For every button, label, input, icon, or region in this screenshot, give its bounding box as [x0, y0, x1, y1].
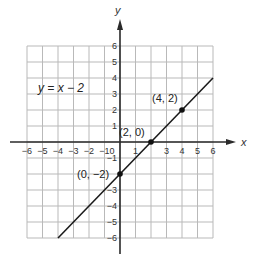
- y-axis-label: y: [114, 4, 122, 16]
- coordinate-graph: −6−5−4−3−2−1013456654321−1−3−4−5−6 (0, −…: [0, 0, 261, 262]
- x-axis-label: x: [240, 136, 247, 148]
- x-tick-label: −4: [53, 146, 63, 156]
- y-tick-label: 3: [112, 89, 117, 99]
- y-tick-label: 2: [112, 105, 117, 115]
- equation-label: y = x − 2: [37, 81, 84, 95]
- point-label: (0, −2): [77, 168, 109, 180]
- x-tick-label: −2: [84, 146, 94, 156]
- y-tick-label: −4: [107, 201, 117, 211]
- labeled-points: (0, −2)(2, 0)(4, 2): [77, 92, 185, 180]
- y-tick-label: 5: [112, 57, 117, 67]
- x-tick-label: 4: [179, 146, 184, 156]
- x-tick-label: −5: [37, 146, 47, 156]
- y-tick-label: 6: [112, 41, 117, 51]
- point-marker: [117, 171, 123, 177]
- point-label: (4, 2): [152, 92, 178, 104]
- x-tick-label: 3: [164, 146, 169, 156]
- point-marker: [148, 139, 154, 145]
- x-tick-label: −3: [68, 146, 78, 156]
- y-tick-label: −1: [107, 153, 117, 163]
- x-tick-label: 6: [210, 146, 215, 156]
- y-tick-label: −6: [107, 233, 117, 243]
- point-label: (2, 0): [119, 126, 145, 138]
- x-tick-label: −6: [22, 146, 32, 156]
- point-marker: [179, 107, 185, 113]
- y-axis-arrow-icon: [117, 19, 123, 30]
- y-tick-label: −5: [107, 217, 117, 227]
- x-axis-arrow-icon: [226, 139, 236, 145]
- x-tick-label: 5: [195, 146, 200, 156]
- y-tick-label: 1: [112, 121, 117, 131]
- x-tick-label: 1: [133, 146, 138, 156]
- y-tick-label: 4: [112, 73, 117, 83]
